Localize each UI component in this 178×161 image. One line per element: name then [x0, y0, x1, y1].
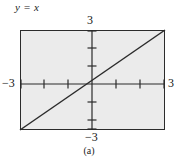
- function-label: y = x: [15, 0, 39, 14]
- plot-canvas: [20, 30, 165, 130]
- x-axis-min-label: −3: [2, 77, 15, 90]
- x-axis-max-label: 3: [168, 77, 174, 90]
- y-axis-max-label: 3: [87, 14, 93, 27]
- figure-caption: (a): [0, 145, 178, 157]
- graph-figure: y = x 3 −3 −3 3 (a): [0, 0, 178, 161]
- y-axis-min-label: −3: [85, 131, 98, 144]
